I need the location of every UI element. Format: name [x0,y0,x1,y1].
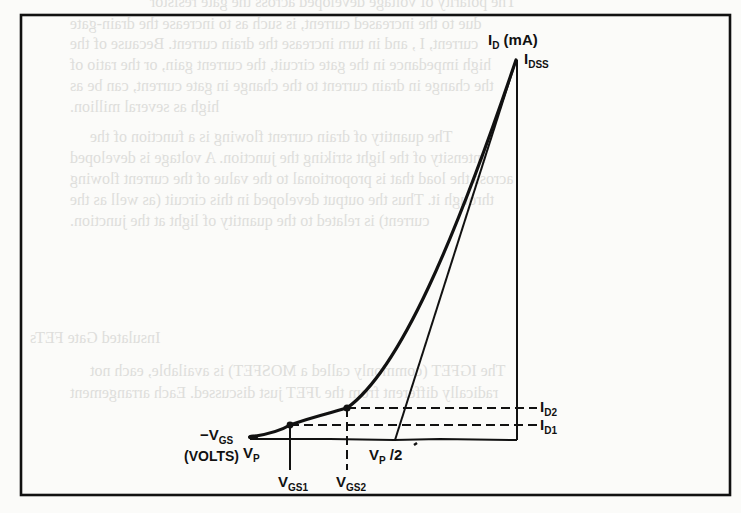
figure-frame [21,15,730,495]
vp-half-label: VP /2 [369,446,402,466]
operating-point-2 [343,404,350,411]
operating-point-1 [287,422,294,429]
vp-label: VP [243,444,260,464]
tangent-line [395,60,516,440]
id-axis-label: ID (mA) [488,31,538,51]
vgs1-label: VGS1 [278,473,308,493]
tick-mark [414,443,417,445]
id1-label: ID1 [540,416,557,436]
transfer-curve [250,60,516,437]
idss-label: IDSS [524,50,549,70]
vgs2-label: VGS2 [336,473,366,493]
pinch-off-point [248,434,258,439]
id2-label: ID2 [540,398,557,418]
jfet-transfer-characteristic-diagram: ID (mA) IDSS ID2 ID1 −VGS (VOLTS) VP VGS… [0,0,741,513]
vgs-axis-label: −VGS [200,426,234,446]
volts-unit-label: (VOLTS) [184,448,239,464]
